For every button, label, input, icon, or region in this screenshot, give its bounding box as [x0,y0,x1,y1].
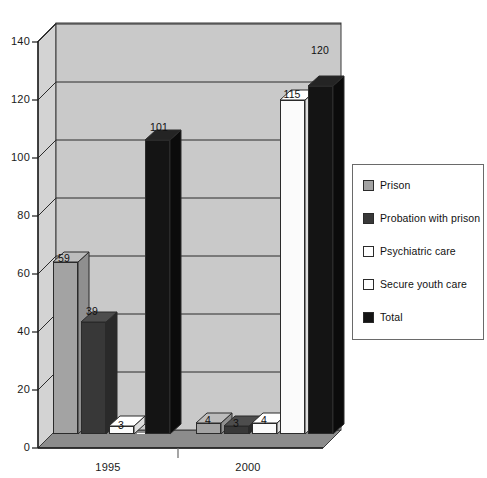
chart-legend: Prison Probation with prison Psychiatric… [352,164,484,340]
legend-swatch-probation-with-prison [363,213,374,224]
y-tick-label-120: 120 [0,93,30,105]
y-tick-label-0: 0 [0,441,30,453]
legend-label-probation-with-prison: Probation with prison [380,212,480,224]
bar-3d-extrusion [308,76,350,442]
bar-label-1995-prison: 59 [44,252,84,264]
y-tick-label-140: 140 [0,35,30,47]
bar-2000-youth [280,100,305,434]
bar-1995-probation [81,322,106,434]
legend-label-prison: Prison [380,179,410,191]
legend-item-secure-youth-care[interactable]: Secure youth care [363,278,467,290]
bar-2000-total [308,86,333,434]
y-tick-label-40: 40 [0,325,30,337]
legend-label-psychiatric-care: Psychiatric care [380,245,456,257]
bar-3d-extrusion [145,130,187,442]
bar-1995-prison [53,262,78,434]
bar-1995-total [145,140,170,434]
bar-label-2000-total: 120 [300,44,340,56]
y-tick-label-100: 100 [0,151,30,163]
legend-swatch-prison [363,180,374,191]
legend-swatch-psychiatric-care [363,246,374,257]
legend-swatch-total [363,312,374,323]
bar-label-1995-probation: 39 [72,305,112,317]
legend-swatch-secure-youth-care [363,279,374,290]
x-tick-label-1995: 1995 [78,461,138,473]
bar-label-2000-psychiatric: 4 [244,414,284,426]
legend-item-psychiatric-care[interactable]: Psychiatric care [363,245,456,257]
y-tick-label-80: 80 [0,209,30,221]
bar-chart: 140 120 100 80 60 40 20 0 1995 2000 59 3… [0,0,487,478]
legend-label-total: Total [380,311,403,323]
legend-item-probation-with-prison[interactable]: Probation with prison [363,212,480,224]
y-tick-label-60: 60 [0,267,30,279]
bar-label-1995-total: 101 [139,121,179,133]
legend-item-total[interactable]: Total [363,311,403,323]
x-tick-label-2000: 2000 [218,461,278,473]
bar-label-2000-youth: 115 [272,88,312,100]
legend-label-secure-youth-care: Secure youth care [380,278,467,290]
legend-item-prison[interactable]: Prison [363,179,410,191]
y-tick-label-20: 20 [0,383,30,395]
